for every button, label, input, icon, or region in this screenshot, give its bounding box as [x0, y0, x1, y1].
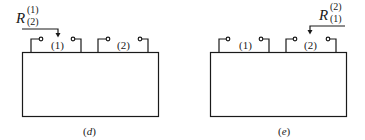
port-label-2-e: (2) [304, 40, 317, 51]
caption-letter: e [282, 125, 287, 137]
reflection-label-d: R (1) (2) [16, 11, 25, 26]
diagram-canvas [0, 0, 365, 140]
reflection-symbol: R [16, 10, 25, 26]
reflection-label-e: R (2) (1) [319, 8, 328, 23]
caption-letter: d [87, 125, 93, 137]
caption-e: (e) [278, 126, 290, 137]
network-box-e [211, 53, 347, 117]
caption-d: (d) [83, 126, 96, 137]
reflection-superscript: (2) [330, 2, 342, 12]
arrow-icon-e [310, 26, 345, 31]
arrowhead-icon-d [56, 33, 61, 38]
port-label-2-d: (2) [117, 40, 130, 51]
arrow-icon-d [22, 29, 58, 34]
reflection-superscript: (1) [27, 5, 39, 15]
arrowhead-icon-e [308, 30, 313, 35]
reflection-subscript: (1) [330, 14, 342, 24]
reflection-symbol: R [319, 7, 328, 23]
network-box-d [23, 53, 159, 117]
port-label-1-e: (1) [239, 40, 252, 51]
port-label-1-d: (1) [51, 40, 64, 51]
reflection-subscript: (2) [27, 17, 39, 27]
